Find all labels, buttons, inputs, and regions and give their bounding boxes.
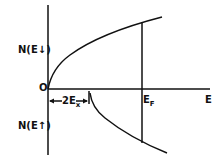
lower-y-label: N(E↑): [18, 120, 51, 131]
exchange-splitting-label: 2Ex: [62, 95, 80, 109]
diagram-graphics: [0, 0, 223, 162]
origin-label: O: [39, 82, 48, 93]
arrowhead-left-icon: [49, 99, 54, 104]
energy-axis-label: E: [205, 94, 212, 105]
fermi-energy-label: EF: [143, 94, 155, 108]
spin-up-curve: [90, 93, 167, 153]
density-of-states-diagram: N(E↓) N(E↑) O E EF 2Ex: [0, 0, 223, 162]
upper-y-label: N(E↓): [18, 44, 51, 55]
spin-down-curve: [48, 17, 162, 89]
arrowhead-right-icon: [83, 99, 88, 104]
